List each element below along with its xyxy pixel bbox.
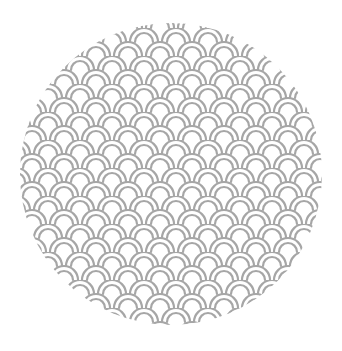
- wave-pattern-circle: [0, 0, 342, 351]
- pattern-swatch: [0, 0, 342, 351]
